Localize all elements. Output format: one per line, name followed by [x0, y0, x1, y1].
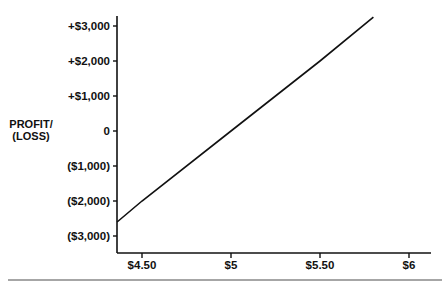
x-tick-label: $5 [225, 259, 238, 271]
x-tick-label: $6 [403, 259, 416, 271]
y-axis-ticks: +$3,000+$2,000+$1,0000($1,000)($2,000)($… [67, 20, 117, 242]
y-tick-label: ($1,000) [67, 160, 110, 172]
profit-loss-chart: PROFIT/ (LOSS) +$3,000+$2,000+$1,0000($1… [0, 0, 445, 286]
y-axis-label: PROFIT/ (LOSS) [9, 118, 52, 142]
y-tick-label: ($2,000) [67, 195, 110, 207]
x-tick-label: $5.50 [306, 259, 335, 271]
y-axis-label-line2: (LOSS) [12, 130, 50, 142]
y-tick-label: +$2,000 [68, 55, 110, 67]
y-tick-label: +$3,000 [68, 20, 110, 32]
profit-loss-line [117, 17, 373, 222]
x-axis-ticks: $4.50$5$5.50$6 [128, 253, 416, 271]
y-axis-label-line1: PROFIT/ [9, 118, 52, 130]
x-tick-label: $4.50 [128, 259, 157, 271]
y-tick-label: 0 [104, 125, 110, 137]
y-tick-label: ($3,000) [67, 230, 110, 242]
y-tick-label: +$1,000 [68, 90, 110, 102]
